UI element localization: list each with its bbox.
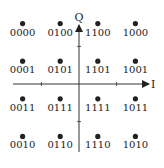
symbol-label: 0010 (10, 139, 35, 150)
symbol-label: 1011 (123, 102, 148, 113)
symbol-dot (133, 134, 138, 139)
symbol-dot (133, 96, 138, 101)
constellation-point: 0110 (47, 134, 72, 151)
symbol-label: 1111 (85, 102, 110, 113)
constellation-point: 0101 (47, 59, 72, 76)
constellation-point: 0000 (10, 21, 35, 38)
constellation-point: 0001 (10, 59, 35, 76)
q-axis-label: Q (74, 11, 83, 24)
symbol-dot (20, 59, 25, 64)
symbol-dot (95, 96, 100, 101)
symbol-dot (58, 134, 63, 139)
symbol-dot (58, 59, 63, 64)
constellation-point: 1111 (85, 96, 110, 113)
constellation-point: 1011 (123, 96, 148, 113)
constellation-point: 1101 (85, 59, 110, 76)
constellation-point: 0010 (10, 134, 35, 151)
symbol-label: 0001 (10, 64, 35, 75)
symbol-dot (20, 96, 25, 101)
symbol-dot (95, 21, 100, 26)
symbol-label: 0101 (47, 64, 72, 75)
symbol-label: 0100 (47, 27, 72, 38)
constellation-point: 0011 (10, 96, 35, 113)
constellation-diagram: I Q 000001001100100000010101110110010011… (0, 0, 164, 168)
symbol-label: 1001 (123, 64, 148, 75)
symbol-dot (133, 21, 138, 26)
symbol-label: 1010 (123, 139, 148, 150)
symbol-label: 1100 (85, 27, 110, 38)
symbol-dot (95, 59, 100, 64)
symbol-dot (20, 21, 25, 26)
symbol-label: 0011 (10, 102, 35, 113)
symbol-label: 0000 (10, 27, 35, 38)
symbol-label: 1110 (85, 139, 110, 150)
constellation-point: 0111 (47, 96, 72, 113)
symbol-label: 1000 (123, 27, 148, 38)
symbol-label: 1101 (85, 64, 110, 75)
symbol-label: 0110 (47, 139, 72, 150)
symbol-dot (20, 134, 25, 139)
constellation-point: 0100 (47, 21, 72, 38)
symbol-dot (133, 59, 138, 64)
constellation-point: 1110 (85, 134, 110, 151)
constellation-point: 1010 (123, 134, 148, 151)
i-axis-label: I (151, 78, 155, 91)
symbol-label: 0111 (47, 102, 72, 113)
symbol-dot (58, 96, 63, 101)
constellation-point: 1100 (85, 21, 110, 38)
constellation-point: 1000 (123, 21, 148, 38)
symbol-dot (58, 21, 63, 26)
constellation-point: 1001 (123, 59, 148, 76)
symbol-dot (95, 134, 100, 139)
